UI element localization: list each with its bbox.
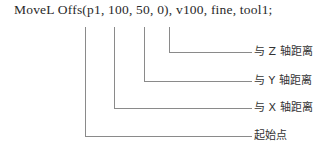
- leader-line-start-vertical: [85, 27, 86, 136]
- label-start-point: 起始点: [254, 130, 287, 142]
- leader-line-y-horizontal: [144, 81, 252, 82]
- leader-line-x-horizontal: [114, 108, 252, 109]
- leader-line-z-horizontal: [169, 52, 252, 53]
- label-z-distance: 与 Z 轴距离: [254, 46, 313, 58]
- label-y-distance: 与 Y 轴距离: [254, 75, 312, 87]
- leader-line-start-horizontal: [85, 136, 252, 137]
- leader-line-z-vertical: [169, 27, 170, 52]
- label-x-distance: 与 X 轴距离: [254, 102, 313, 114]
- leader-line-y-vertical: [144, 27, 145, 81]
- leader-line-x-vertical: [114, 27, 115, 108]
- code-line: MoveL Offs(p1, 100, 50, 0), v100, fine, …: [14, 2, 273, 18]
